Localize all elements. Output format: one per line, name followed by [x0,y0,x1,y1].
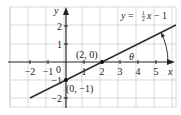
point-label-2-0: (2, 0) [76,49,98,61]
y-tick-label: −2 [51,93,62,104]
equation-equals: = [125,10,134,21]
x-tick-label: 1 [82,66,87,77]
equation-frac-den: 2 [142,16,145,22]
x-tick-label: 5 [154,66,159,77]
y-tick-label: 2 [57,21,62,32]
angle-arrow-icon [161,32,165,37]
point-0-neg1 [64,78,68,82]
point-2-0 [100,60,104,64]
theta-label: θ [129,51,134,62]
point-label-0-neg1: (0, −1) [66,83,93,95]
x-tick-label: 4 [136,66,141,77]
x-axis-label: x [167,66,173,77]
x-tick-label: −2 [25,66,36,77]
coordinate-plane-figure: −2−11234521−1−2 y x 0 (2, 0) (0, −1) θ y… [0,0,181,115]
origin-label: 0 [56,64,61,75]
svg-text:x − 1: x − 1 [146,10,167,21]
svg-text:y =: y = [120,10,134,21]
x-tick-label: 2 [100,66,105,77]
x-tick-label: 3 [118,66,123,77]
equation-label: y = 1 2 x − 1 [120,10,167,22]
equation-rest: − 1 [151,10,167,21]
y-tick-label: 1 [57,39,62,50]
y-tick-label: −1 [51,75,62,86]
y-axis-label: y [53,5,59,16]
